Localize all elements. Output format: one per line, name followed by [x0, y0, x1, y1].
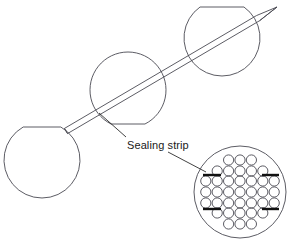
tube-circle: [235, 198, 245, 208]
tube-circle: [235, 208, 245, 218]
tube-circle: [246, 198, 256, 208]
leader-to-strip: [99, 113, 126, 137]
tube-circle: [235, 219, 245, 229]
tube-circle: [246, 155, 256, 165]
tube-circle: [201, 187, 211, 197]
tube-circle: [224, 187, 234, 197]
strip-taper-edge: [260, 7, 277, 21]
tube-circle: [235, 187, 245, 197]
tube-circle: [201, 198, 211, 208]
strip-outline: [64, 7, 277, 134]
sealing-strip-band: [64, 7, 277, 134]
tube-layout-detail: [194, 146, 286, 238]
tube-circle: [224, 155, 234, 165]
technical-diagram: [0, 0, 290, 241]
tube-circle: [212, 176, 222, 186]
lower-left-shell: [4, 127, 80, 198]
tube-circle: [258, 198, 268, 208]
tube-circle: [246, 166, 256, 176]
tube-circle: [235, 155, 245, 165]
tube-circle: [224, 198, 234, 208]
tube-circle: [258, 187, 268, 197]
tube-circle: [246, 208, 256, 218]
diagram-canvas: Sealing strip: [0, 0, 290, 241]
upper-right-shell: [184, 7, 260, 76]
tube-circle: [224, 208, 234, 218]
tube-circle: [235, 166, 245, 176]
tube-circle: [246, 187, 256, 197]
tube-circle: [212, 198, 222, 208]
tube-circle: [224, 219, 234, 229]
tube-circle: [224, 166, 234, 176]
tube-circle: [235, 176, 245, 186]
tube-circle: [224, 176, 234, 186]
tube-circle: [258, 176, 268, 186]
sealing-strip-label: Sealing strip: [127, 139, 189, 151]
tube-circle: [246, 219, 256, 229]
tube-circle: [246, 176, 256, 186]
tube-circle: [269, 198, 279, 208]
detail-circle-outline: [194, 146, 286, 238]
tube-circle: [269, 176, 279, 186]
tube-circle: [212, 187, 222, 197]
tube-circle: [201, 176, 211, 186]
tube-circle: [269, 187, 279, 197]
